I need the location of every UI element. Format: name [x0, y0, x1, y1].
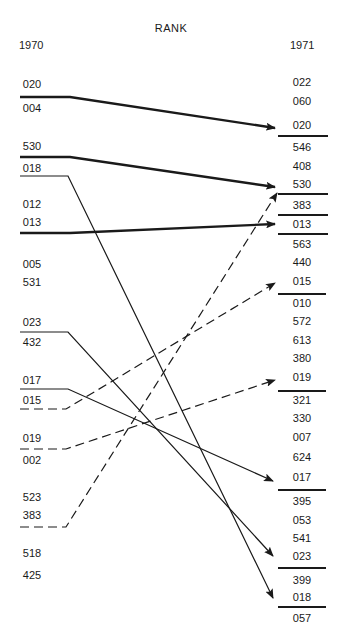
movement-018	[20, 176, 273, 598]
movement-383	[20, 193, 277, 527]
movement-530	[20, 157, 275, 187]
movement-013	[20, 224, 275, 233]
movement-015	[20, 283, 275, 409]
movement-020	[20, 97, 275, 128]
movement-019	[20, 380, 275, 449]
movement-023	[20, 332, 273, 556]
right-separators	[278, 136, 328, 607]
movement-017	[20, 389, 273, 481]
rank-movement-lines	[0, 0, 342, 637]
